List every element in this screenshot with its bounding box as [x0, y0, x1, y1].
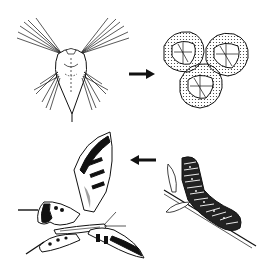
arrow-right-icon [129, 69, 155, 79]
larva-illustration [14, 14, 130, 124]
caterpillar-illustration [162, 150, 258, 250]
eggs-illustration [158, 26, 254, 110]
butterfly-illustration [14, 130, 146, 260]
